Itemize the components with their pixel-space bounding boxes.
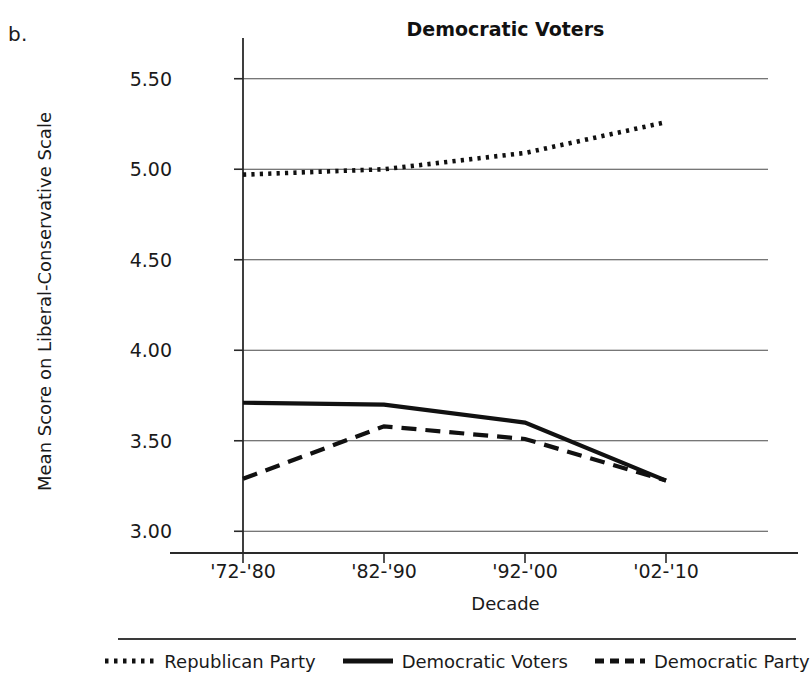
legend-item[interactable]: Republican Party	[104, 651, 315, 672]
legend-swatch-solid-icon	[342, 654, 394, 668]
series-line-0	[243, 122, 666, 174]
legend-item[interactable]: Democratic Voters	[342, 651, 568, 672]
legend-label: Democratic Voters	[402, 651, 568, 672]
legend-item[interactable]: Democratic Party	[594, 651, 810, 672]
legend-label: Republican Party	[164, 651, 315, 672]
series-line-1	[243, 403, 666, 481]
legend-label: Democratic Party	[654, 651, 810, 672]
legend-swatch-dashed-icon	[594, 654, 646, 668]
legend-swatch-dotted-icon	[104, 654, 156, 668]
chart-legend: Republican PartyDemocratic VotersDemocra…	[118, 638, 796, 682]
